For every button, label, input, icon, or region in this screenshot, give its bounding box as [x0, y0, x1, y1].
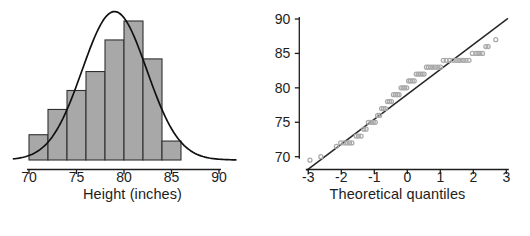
qq-y-tick-labels: 9085807570 — [275, 11, 291, 165]
qq-data-point — [334, 144, 338, 148]
qq-x-tick-label: 2 — [469, 169, 477, 185]
qq-y-tick-label: 90 — [275, 11, 291, 27]
histogram-x-tick-label: 80 — [116, 169, 132, 185]
qq-x-tick-label: -3 — [302, 169, 315, 185]
qq-data-point — [359, 134, 363, 138]
histogram-bar — [143, 59, 162, 160]
histogram-bar — [162, 141, 181, 160]
histogram-bar — [86, 72, 105, 160]
histogram-x-tick-label: 90 — [211, 169, 227, 185]
qq-y-tick-label: 80 — [275, 80, 291, 96]
qq-x-tick-label: 3 — [502, 169, 510, 185]
qq-x-tick-labels: -3-2-10123 — [302, 169, 510, 185]
qq-y-tick-label: 85 — [275, 45, 291, 61]
qq-plot-panel: 9085807570 -3-2-10123 Theoretical quanti… — [265, 0, 530, 236]
qq-data-points — [308, 38, 498, 162]
qq-data-point — [494, 38, 498, 42]
histogram-x-tick-labels: 7075808590 — [21, 169, 227, 185]
histogram-x-axis-label: Height (inches) — [0, 186, 265, 202]
qq-data-point — [308, 158, 312, 162]
qq-data-point — [439, 65, 443, 69]
qq-y-axis — [295, 17, 300, 159]
qq-plot-area: 9085807570 -3-2-10123 — [265, 0, 530, 186]
qq-reference-line — [307, 18, 508, 170]
histogram-bar — [124, 21, 143, 160]
qq-x-tick-label: 1 — [436, 169, 444, 185]
qq-y-tick-label: 75 — [275, 114, 291, 130]
histogram-x-tick-label: 75 — [69, 169, 85, 185]
qq-data-point — [319, 155, 323, 159]
qq-y-tick-label: 70 — [275, 149, 291, 165]
qq-x-tick-label: -2 — [335, 169, 348, 185]
histogram-bar — [105, 40, 124, 160]
qq-data-point — [481, 51, 485, 55]
histogram-x-tick-label: 70 — [21, 169, 37, 185]
qq-data-point — [467, 58, 471, 62]
figure-panel-pair: 7075808590 Height (inches) 9085807570 -3… — [0, 0, 530, 236]
histogram-panel: 7075808590 Height (inches) — [0, 0, 265, 236]
histogram-bar — [29, 135, 48, 160]
qq-x-axis-label: Theoretical quantiles — [265, 186, 530, 202]
histogram-bars — [29, 21, 181, 160]
qq-x-tick-label: -1 — [368, 169, 381, 185]
histogram-plot-area: 7075808590 — [0, 0, 265, 186]
histogram-x-tick-label: 85 — [164, 169, 180, 185]
qq-x-tick-label: 0 — [403, 169, 411, 185]
